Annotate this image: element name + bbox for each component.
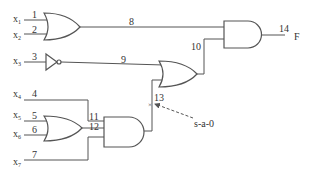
label-wire-5: 5 <box>32 110 37 121</box>
input-x5: x5 <box>13 109 21 121</box>
input-x3: x3 <box>13 55 21 67</box>
label-wire-3: 3 <box>32 51 37 62</box>
input-x2: x2 <box>13 29 21 41</box>
or-gate-1 <box>44 13 80 40</box>
label-wire-2: 2 <box>32 24 37 35</box>
input-x4: x4 <box>13 88 21 100</box>
label-wire-9: 9 <box>121 54 126 65</box>
input-x7: x7 <box>13 156 21 168</box>
label-wire-1: 1 <box>32 9 37 20</box>
or-gate-3 <box>44 116 82 141</box>
wire-10 <box>197 39 224 74</box>
and-gate-1 <box>224 21 262 48</box>
fault-x-mark: × <box>148 101 152 109</box>
wire-9 <box>61 62 164 65</box>
output-label-f: F <box>294 31 300 42</box>
fault-arrow <box>155 104 193 118</box>
label-wire-4: 4 <box>32 88 37 99</box>
label-wire-14: 14 <box>279 23 289 34</box>
wire-13 <box>144 80 164 131</box>
input-x6: x6 <box>13 128 21 140</box>
input-x1: x1 <box>13 13 21 25</box>
label-wire-12: 12 <box>89 121 99 132</box>
label-wire-13: 13 <box>154 92 164 103</box>
label-wire-7: 7 <box>32 149 37 160</box>
and-gate-2 <box>104 117 144 147</box>
logic-circuit-diagram: x1 x2 x3 x4 x5 x6 x7 <box>0 0 310 177</box>
fault-label: s-a-0 <box>194 118 214 129</box>
input-labels: x1 x2 x3 x4 x5 x6 x7 <box>13 13 21 168</box>
or-gate-2 <box>159 61 197 87</box>
label-wire-6: 6 <box>32 124 37 135</box>
not-gate <box>46 54 61 70</box>
label-wire-8: 8 <box>129 16 134 27</box>
label-wire-10: 10 <box>191 41 201 52</box>
fault-annotation: × s-a-0 <box>148 101 214 129</box>
